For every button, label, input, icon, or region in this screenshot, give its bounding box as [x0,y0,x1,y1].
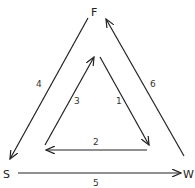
edge-label-6: 6 [150,79,156,89]
edge-label-3: 3 [74,96,80,106]
node-F: F [91,6,97,19]
edge-label-2: 2 [93,137,99,147]
edge-label-5: 5 [93,178,99,188]
node-S: S [3,168,10,181]
triangle-cycle-diagram: F S W 4 6 3 1 2 5 [0,0,195,188]
edge-label-4: 4 [36,79,42,89]
edge-label-1: 1 [116,96,122,106]
edge-3-arrow [45,57,94,145]
edge-6-arrow [106,19,184,156]
edge-1-arrow [100,57,149,145]
node-W: W [183,168,194,181]
